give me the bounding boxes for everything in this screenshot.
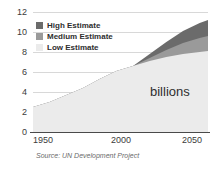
legend-item-high: High Estimate <box>36 20 113 30</box>
ytick-label-12: 12 <box>0 8 27 17</box>
xtick-label-2000: 2000 <box>111 135 131 145</box>
population-projection-chart: 12 10 8 6 4 2 0 1950 2000 2050 High Esti… <box>0 0 212 173</box>
xtick-label-1950: 1950 <box>33 135 53 145</box>
legend-item-medium: Medium Estimate <box>36 31 113 41</box>
chart-legend: High Estimate Medium Estimate Low Estima… <box>36 20 113 53</box>
legend-label-low: Low Estimate <box>47 43 99 52</box>
ytick-label-0: 0 <box>0 128 27 137</box>
ytick-label-8: 8 <box>0 48 27 57</box>
ytick-label-6: 6 <box>0 68 27 77</box>
legend-swatch-medium-icon <box>36 33 43 40</box>
source-note: Source: UN Development Project <box>36 152 139 160</box>
annotation-billions: billions <box>150 85 190 99</box>
legend-item-low: Low Estimate <box>36 42 113 52</box>
legend-swatch-high-icon <box>36 22 43 29</box>
xtick-label-2050: 2050 <box>182 135 202 145</box>
legend-label-medium: Medium Estimate <box>47 32 113 41</box>
ytick-label-4: 4 <box>0 88 27 97</box>
legend-swatch-low-icon <box>36 44 43 51</box>
x-axis-line <box>30 132 210 133</box>
ytick-label-2: 2 <box>0 108 27 117</box>
legend-label-high: High Estimate <box>47 21 100 30</box>
ytick-label-10: 10 <box>0 28 27 37</box>
